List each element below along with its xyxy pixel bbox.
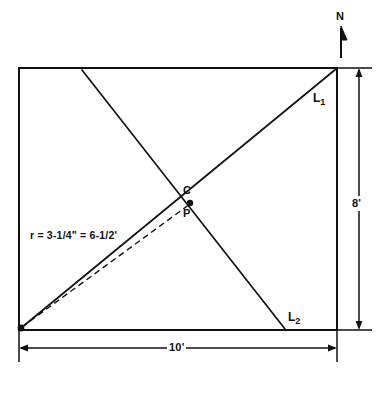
diagram-canvas: N L1 L2 C P r = 3-1/4" = 6-1/2' 8' 10' <box>0 0 384 411</box>
radius-dashed-line <box>22 204 190 327</box>
diagram-svg <box>0 0 384 411</box>
north-label: N <box>336 11 344 22</box>
point-label-C: C <box>183 185 191 196</box>
line-L2 <box>82 70 285 329</box>
line-label-L2: L2 <box>288 311 300 326</box>
line-L1 <box>21 69 336 328</box>
width-dimension-label: 10' <box>167 342 186 353</box>
radius-label: r = 3-1/4" = 6-1/2' <box>30 230 117 241</box>
point-label-P: P <box>183 208 190 219</box>
north-arrow-icon <box>341 26 347 58</box>
line-label-L1-subscript: 1 <box>320 97 325 107</box>
line-label-L2-subscript: 2 <box>295 316 300 326</box>
height-dimension-label: 8' <box>352 196 361 211</box>
line-label-L1: L1 <box>313 92 325 107</box>
intersection-point-marker <box>187 200 193 206</box>
